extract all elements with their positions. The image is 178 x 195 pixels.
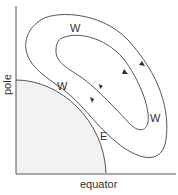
y-axis-label: pole	[1, 74, 13, 95]
x-axis-label: equator	[80, 178, 118, 190]
labels-layer: W W W E equator pole	[0, 0, 178, 195]
circulation-diagram: W W W E equator pole	[0, 0, 178, 195]
label-w-right: W	[150, 112, 161, 124]
label-w-top: W	[70, 22, 81, 34]
label-e: E	[100, 130, 107, 142]
label-w-boundary: W	[57, 80, 68, 92]
